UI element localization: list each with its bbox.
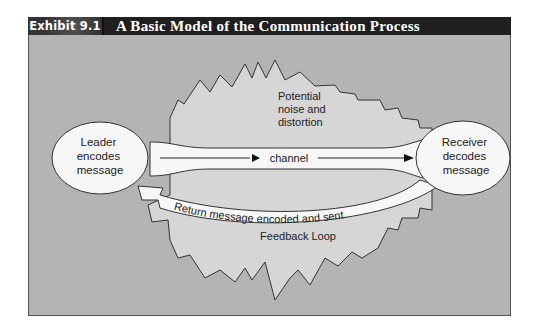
channel-label: channel bbox=[270, 152, 309, 164]
communication-diagram: channel Return message encoded and sent … bbox=[0, 0, 540, 333]
sender-label: Leader encodes message bbox=[77, 136, 124, 176]
feedback-loop-label: Feedback Loop bbox=[260, 230, 336, 242]
receiver-label: Receiver decodes message bbox=[442, 136, 491, 176]
noise-label: Potential noise and distortion bbox=[278, 90, 329, 128]
